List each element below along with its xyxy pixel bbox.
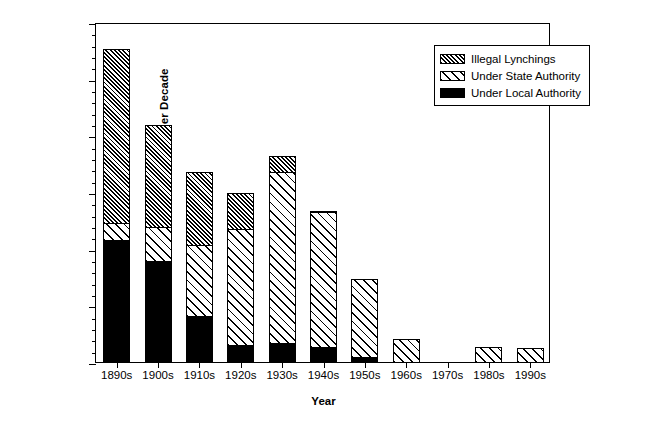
y-tick-major (89, 251, 96, 252)
x-tick (241, 362, 242, 368)
y-tick-minor (92, 341, 96, 342)
x-tick (406, 362, 407, 368)
legend-swatch-icon (440, 54, 465, 64)
y-tick-minor (92, 58, 96, 59)
x-tick (489, 362, 490, 368)
x-tick (158, 362, 159, 368)
bar-segment-under-local-authority (269, 343, 296, 362)
legend-item-under-local-authority[interactable]: Under Local Authority (440, 84, 581, 101)
legend-item-under-state-authority[interactable]: Under State Authority (440, 67, 581, 84)
y-tick-minor (92, 296, 96, 297)
y-tick-major (89, 307, 96, 308)
x-tick (282, 362, 283, 368)
legend-item-illegal-lynchings[interactable]: Illegal Lynchings (440, 50, 581, 67)
bar-segment-under-state-authority (103, 223, 130, 241)
bar-1960s (393, 339, 420, 362)
y-tick-minor (92, 217, 96, 218)
bar-segment-illegal-lynchings (310, 211, 337, 213)
y-tick-minor (92, 353, 96, 354)
bar-segment-illegal-lynchings (103, 49, 130, 225)
bar-1940s (310, 211, 337, 362)
y-tick-minor (92, 239, 96, 240)
y-tick-minor (92, 330, 96, 331)
bar-1910s (186, 173, 213, 362)
y-tick-minor (92, 171, 96, 172)
bar-segment-under-state-authority (310, 212, 337, 348)
y-tick-minor (92, 126, 96, 127)
y-tick-minor (92, 228, 96, 229)
bar-segment-under-state-authority (393, 339, 420, 363)
y-tick-minor (92, 92, 96, 93)
bar-segment-under-local-authority (310, 347, 337, 363)
x-tick (117, 362, 118, 368)
bar-1930s (269, 157, 296, 362)
legend-swatch-icon (440, 71, 465, 81)
bar-1900s (145, 125, 172, 362)
bar-1990s (517, 348, 544, 362)
bar-1950s (351, 279, 378, 362)
y-tick-minor (92, 205, 96, 206)
y-tick-minor (92, 160, 96, 161)
bar-segment-illegal-lynchings (227, 193, 254, 230)
legend-label: Under State Authority (471, 70, 580, 82)
bar-segment-under-local-authority (227, 344, 254, 362)
x-tick (199, 362, 200, 368)
legend-swatch-icon (440, 88, 465, 98)
y-tick-major (89, 24, 96, 25)
bar-segment-under-state-authority (517, 348, 544, 363)
y-tick-minor (92, 149, 96, 150)
bar-1920s (227, 193, 254, 362)
bar-segment-under-local-authority (145, 261, 172, 363)
bar-segment-illegal-lynchings (186, 172, 213, 246)
legend-label: Illegal Lynchings (471, 53, 556, 65)
y-tick-minor (92, 183, 96, 184)
x-tick (448, 362, 449, 368)
bar-segment-illegal-lynchings (269, 156, 296, 173)
y-tick-minor (92, 262, 96, 263)
y-tick-minor (92, 69, 96, 70)
bar-segment-under-local-authority (103, 240, 130, 362)
bar-1980s (475, 348, 502, 362)
bar-segment-under-state-authority (145, 227, 172, 262)
y-tick-major (89, 194, 96, 195)
y-tick-major (89, 364, 96, 365)
chart-legend: Illegal LynchingsUnder State AuthorityUn… (434, 45, 590, 106)
bar-1890s (103, 49, 130, 362)
x-axis-title: Year (96, 395, 551, 407)
bar-segment-under-local-authority (186, 316, 213, 363)
bar-segment-under-state-authority (186, 245, 213, 318)
bar-segment-illegal-lynchings (145, 125, 172, 228)
chart-figure: Total Executions per Decade 05001,0001,5… (0, 0, 647, 442)
y-tick-major (89, 137, 96, 138)
x-tick (324, 362, 325, 368)
y-tick-major (89, 81, 96, 82)
y-tick-minor (92, 103, 96, 104)
x-tick (365, 362, 366, 368)
x-tick (530, 362, 531, 368)
y-tick-minor (92, 319, 96, 320)
y-tick-minor (92, 273, 96, 274)
bar-segment-under-state-authority (475, 347, 502, 362)
bar-segment-under-state-authority (269, 172, 296, 344)
legend-label: Under Local Authority (471, 87, 581, 99)
y-tick-minor (92, 115, 96, 116)
y-tick-minor (92, 35, 96, 36)
y-tick-minor (92, 47, 96, 48)
bar-segment-under-state-authority (351, 279, 378, 358)
x-tick-label: 1990s (500, 369, 560, 381)
y-tick-minor (92, 285, 96, 286)
bar-segment-under-state-authority (227, 229, 254, 346)
